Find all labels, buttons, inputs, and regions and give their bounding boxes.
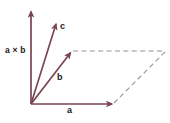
vector-diagram: a × b c b a (0, 0, 170, 123)
vector-label-b: b (57, 73, 63, 82)
vector-label-c: c (60, 22, 65, 31)
vector-label-a: a (67, 106, 72, 115)
vector-c-arrow (31, 24, 56, 104)
vector-b-arrow (31, 53, 71, 104)
vector-diagram-canvas (0, 0, 170, 123)
vector-label-a-cross-b: a × b (5, 46, 26, 55)
parallelogram-right-edge-dashed (114, 52, 166, 104)
